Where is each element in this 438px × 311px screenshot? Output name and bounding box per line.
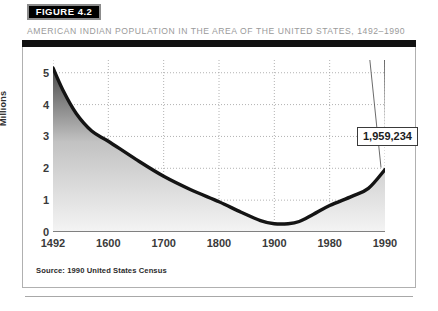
population-series — [53, 68, 385, 232]
bottom-divider — [25, 296, 413, 297]
source-note: Source: 1990 United States Census — [36, 266, 167, 275]
x-axis-tick-1900: 1900 — [252, 238, 296, 249]
y-axis-tick-5: 5 — [35, 68, 49, 79]
plot-area — [53, 60, 385, 232]
data-point-callout: 1,959,234 — [357, 127, 418, 146]
y-axis-tick-4: 4 — [35, 100, 49, 111]
panel-top-bar — [22, 40, 416, 47]
figure-number-badge: FIGURE 4.2 — [27, 4, 101, 20]
area-fill — [53, 68, 385, 232]
x-axis-tick-1980: 1980 — [308, 238, 352, 249]
figure-number-label: FIGURE 4.2 — [36, 7, 93, 17]
y-axis-tick-labels: 012345 — [33, 54, 49, 238]
population-area-chart — [53, 60, 385, 232]
y-axis-tick-2: 2 — [35, 163, 49, 174]
figure-title: AMERICAN INDIAN POPULATION IN THE AREA O… — [27, 26, 427, 36]
y-axis-tick-1: 1 — [35, 195, 49, 206]
x-axis-tick-labels: 1492160017001800190019801990 — [53, 238, 385, 254]
y-axis-title: Millions — [0, 91, 8, 126]
callout-leader-lines — [366, 60, 385, 168]
y-axis-tick-3: 3 — [35, 131, 49, 142]
x-axis-tick-1492: 1492 — [31, 238, 75, 249]
x-axis-tick-1600: 1600 — [86, 238, 130, 249]
x-axis-tick-1990: 1990 — [363, 238, 407, 249]
x-axis-tick-1800: 1800 — [197, 238, 241, 249]
x-axis-tick-1700: 1700 — [142, 238, 186, 249]
